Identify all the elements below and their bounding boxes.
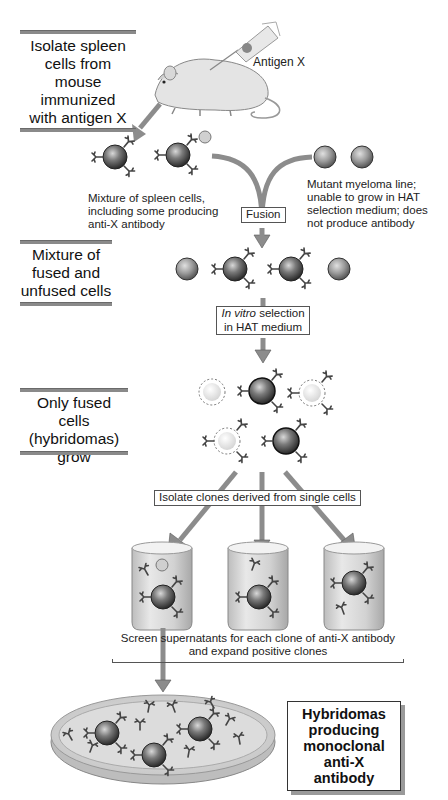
label-line: Only fused cells: [20, 394, 128, 430]
label-line: Mixture of: [20, 246, 112, 264]
caption-line: and expand positive clones: [112, 645, 404, 658]
step-label-isolate: Isolate spleen cells from mouse immunize…: [20, 28, 136, 106]
label-line: fused and: [20, 264, 112, 282]
screen-supernatants-label: Screen supernatants for each clone of an…: [112, 632, 404, 658]
divider: [20, 240, 112, 244]
selection-cells: [199, 368, 333, 463]
caption-line: selection medium; does: [307, 204, 428, 217]
divider: [20, 302, 112, 306]
mixture-cells: [176, 247, 350, 289]
result-line: monoclonal: [294, 738, 394, 754]
text: selection: [256, 307, 305, 319]
caption-line: Screen supernatants for each clone of an…: [112, 632, 404, 645]
label-line: unfused cells: [20, 282, 112, 300]
myeloma-caption: Mutant myeloma line; unable to grow in H…: [307, 178, 428, 230]
spleen-cell-1: [92, 135, 135, 177]
step-label-only-fused: Only fused cells (hybridomas) grow: [20, 388, 128, 466]
caption-line: In vitro selection: [221, 307, 305, 321]
bracket: [112, 659, 404, 663]
label-line: Isolate spleen: [20, 37, 136, 55]
italic-text: In vitro: [221, 307, 256, 319]
label-line: (hybridomas): [20, 430, 128, 448]
caption-line: Mixture of spleen cells,: [88, 192, 218, 205]
isolate-clones-label: Isolate clones derived from single cells: [154, 490, 361, 506]
label-line: immunized: [20, 91, 136, 109]
antigen-x-label: Antigen X: [253, 56, 305, 69]
caption-line: not produce antibody: [307, 217, 428, 230]
caption-line: including some producing: [88, 205, 218, 218]
antigen-icon: [199, 131, 211, 143]
divider: [20, 451, 128, 455]
myeloma-cells: [314, 146, 373, 168]
label-line: cells from mouse: [20, 55, 136, 91]
divider: [20, 388, 128, 392]
result-line: producing: [294, 722, 394, 738]
divider: [20, 30, 136, 34]
caption-line: in HAT medium: [221, 321, 305, 335]
divider: [20, 128, 136, 132]
caption-line: Mutant myeloma line;: [307, 178, 428, 191]
step-label-mixture: Mixture of fused and unfused cells: [20, 240, 112, 300]
beaker-1: [132, 542, 192, 630]
beaker-3: [324, 542, 384, 630]
label-line: with antigen X: [20, 109, 136, 127]
result-box: Hybridomas producing monoclonal anti-X a…: [287, 701, 401, 791]
result-line: anti-X antibody: [294, 754, 394, 786]
in-vitro-selection-label: In vitro selection in HAT medium: [216, 306, 310, 335]
antigen-icon: [156, 559, 168, 571]
result-line: Hybridomas: [294, 706, 394, 722]
petri-dish: [51, 695, 275, 784]
spleen-cells-caption: Mixture of spleen cells, including some …: [88, 192, 218, 231]
spleen-cell-2: [155, 131, 211, 175]
caption-line: anti-X antibody: [88, 218, 218, 231]
fusion-label: Fusion: [241, 207, 286, 223]
beaker-2: [228, 542, 288, 630]
caption-line: unable to grow in HAT: [307, 191, 428, 204]
